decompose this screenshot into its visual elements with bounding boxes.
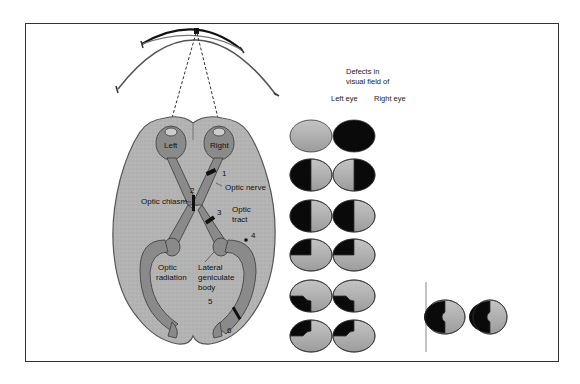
right-eye-label: Right <box>210 141 229 150</box>
field-3-right <box>332 199 375 233</box>
lgb-label-1: Lateral <box>198 263 223 272</box>
lesion-num-2: 2 <box>190 186 195 195</box>
fixation-point <box>194 28 199 34</box>
field-2-right <box>333 158 376 192</box>
visual-field-defects <box>289 120 507 352</box>
lesion-num-1: 1 <box>222 169 227 178</box>
optic-tract-label-2: tract <box>232 215 248 224</box>
lesion-4 <box>244 238 248 242</box>
field-5-left <box>289 280 332 313</box>
field-5-right <box>332 280 375 313</box>
lesion-num-6: 6 <box>227 326 232 335</box>
lgb-label-2: geniculate <box>198 273 235 282</box>
field-6-left <box>289 319 332 352</box>
lesion-num-5: 5 <box>208 297 213 306</box>
optic-radiation-label-1: Optic <box>158 263 177 272</box>
field-1-right <box>333 120 375 152</box>
lesion-num-4: 4 <box>251 231 256 240</box>
field-combined-right <box>468 298 507 336</box>
left-eye-label: Left <box>164 141 178 150</box>
optic-radiation-label-2: radiation <box>156 273 187 282</box>
defects-header-1: Defects in <box>346 67 379 76</box>
field-2-left <box>289 158 332 192</box>
lgb-label-3: body <box>198 283 215 292</box>
optic-chiasm-label: Optic chiasm <box>141 197 188 206</box>
field-4-left <box>289 238 332 271</box>
lesion-2 <box>192 195 195 211</box>
optic-tract-label-1: Optic <box>232 205 251 214</box>
lesion-num-3: 3 <box>217 208 222 217</box>
field-6-right <box>332 319 375 352</box>
field-4-right <box>332 238 375 271</box>
field-3-left <box>289 199 332 233</box>
visual-pathway-diagram: Left Right 1 2 3 4 5 6 Optic nerve Optic… <box>0 0 580 384</box>
col-left-eye: Left eye <box>331 94 358 103</box>
field-combined-left <box>423 298 465 336</box>
col-right-eye: Right eye <box>374 94 406 103</box>
visual-field-arcs <box>116 28 279 118</box>
field-1-left <box>290 120 332 152</box>
defects-header-2: visual field of <box>346 77 390 86</box>
optic-nerve-label: Optic nerve <box>225 183 266 192</box>
